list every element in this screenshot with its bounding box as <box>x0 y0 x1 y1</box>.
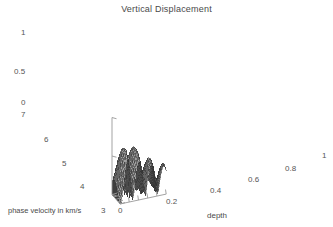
axes-lines <box>0 0 333 227</box>
surface-plot-figure: Vertical Displacement 1 0.5 0 7 6 5 4 3 … <box>0 0 333 227</box>
